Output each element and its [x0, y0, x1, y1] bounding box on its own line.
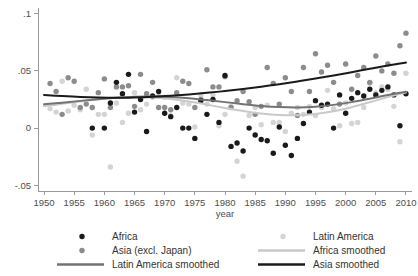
- data-point-asia: [120, 84, 125, 89]
- data-point-africa: [144, 129, 149, 134]
- data-point-latin-america: [325, 88, 330, 93]
- data-point-latin-america: [271, 120, 276, 125]
- data-point-africa: [355, 90, 360, 95]
- data-point-asia: [319, 69, 324, 74]
- data-point-africa: [240, 148, 245, 153]
- data-point-latin-america: [192, 124, 197, 129]
- data-point-asia: [96, 90, 101, 95]
- data-point-africa: [379, 88, 384, 93]
- data-point-asia: [192, 105, 197, 110]
- x-tick-label: 1975: [184, 197, 205, 208]
- data-point-africa: [192, 136, 197, 141]
- data-point-africa: [246, 125, 251, 130]
- data-point-asia: [349, 87, 354, 92]
- data-point-africa: [367, 87, 372, 92]
- data-point-latin-america: [349, 121, 354, 126]
- data-point-africa: [295, 136, 300, 141]
- legend-label: Africa smoothed: [313, 245, 385, 256]
- data-point-asia: [367, 80, 372, 85]
- data-point-africa: [265, 138, 270, 143]
- data-point-africa: [168, 114, 173, 119]
- data-point-latin-america: [114, 100, 119, 105]
- data-point-asia: [180, 79, 185, 84]
- data-point-asia: [150, 80, 155, 85]
- data-point-asia: [204, 67, 209, 72]
- data-point-latin-america: [222, 112, 227, 117]
- data-point-africa: [120, 91, 125, 96]
- data-point-latin-america: [126, 111, 131, 116]
- data-point-latin-america: [234, 159, 239, 164]
- data-point-latin-america: [240, 173, 245, 178]
- data-point-asia: [90, 105, 95, 110]
- data-point-asia: [403, 30, 408, 35]
- legend-marker-icon: [79, 234, 84, 239]
- legend-label: Latin America smoothed: [112, 259, 219, 270]
- legend-label: Asia smoothed: [313, 259, 379, 270]
- legend-label: Latin America: [313, 231, 374, 242]
- x-tick-label: 1985: [245, 197, 266, 208]
- data-point-latin-america: [53, 109, 58, 114]
- data-point-latin-america: [361, 105, 366, 110]
- data-point-asia: [132, 104, 137, 109]
- data-point-africa: [252, 132, 257, 137]
- data-point-africa: [337, 92, 342, 97]
- data-point-africa: [397, 123, 402, 128]
- x-tick-label: 1995: [305, 197, 326, 208]
- x-tick-label: 1950: [33, 197, 54, 208]
- x-tick-label: 2005: [365, 197, 386, 208]
- data-point-africa: [349, 96, 354, 101]
- data-point-asia: [301, 65, 306, 70]
- data-point-asia: [59, 112, 64, 117]
- data-point-africa: [126, 72, 131, 77]
- data-point-africa: [228, 144, 233, 149]
- data-point-africa: [162, 111, 167, 116]
- x-axis-title: year: [216, 208, 234, 219]
- data-point-asia: [156, 105, 161, 110]
- data-point-latin-america: [391, 104, 396, 109]
- data-point-asia: [65, 75, 70, 80]
- data-point-asia: [373, 53, 378, 58]
- data-point-africa: [108, 100, 113, 105]
- data-point-asia: [53, 89, 58, 94]
- legend-label: Africa: [112, 231, 138, 242]
- data-point-latin-america: [84, 87, 89, 92]
- data-point-latin-america: [47, 106, 52, 111]
- y-tick-label: 0: [26, 122, 31, 133]
- data-point-africa: [102, 125, 107, 130]
- data-point-africa: [186, 125, 191, 130]
- data-point-africa: [222, 73, 227, 78]
- data-point-asia: [331, 80, 336, 85]
- data-point-asia: [313, 51, 318, 56]
- data-point-africa: [301, 121, 306, 126]
- data-point-latin-america: [337, 123, 342, 128]
- data-point-latin-america: [96, 112, 101, 117]
- data-point-asia: [289, 89, 294, 94]
- data-point-africa: [277, 124, 282, 129]
- data-point-africa: [234, 140, 239, 145]
- chart-canvas: -.050.05.1195019551960196519701975198019…: [0, 0, 418, 276]
- data-point-latin-america: [397, 139, 402, 144]
- data-point-latin-america: [102, 112, 107, 117]
- data-point-asia: [47, 81, 52, 86]
- x-tick-label: 1970: [154, 197, 175, 208]
- x-tick-label: 1980: [214, 197, 235, 208]
- data-point-latin-america: [258, 122, 263, 127]
- x-tick-label: 1990: [275, 197, 296, 208]
- x-tick-label: 1960: [94, 197, 115, 208]
- data-point-africa: [331, 125, 336, 130]
- data-point-latin-america: [90, 132, 95, 137]
- data-point-latin-america: [108, 164, 113, 169]
- data-point-africa: [258, 137, 263, 142]
- data-point-africa: [90, 125, 95, 130]
- y-tick-label: -.05: [15, 180, 31, 191]
- data-point-africa: [174, 105, 179, 110]
- data-point-latin-america: [283, 129, 288, 134]
- data-point-africa: [216, 120, 221, 125]
- data-point-latin-america: [132, 90, 137, 95]
- data-point-asia: [216, 84, 221, 89]
- data-point-asia: [379, 68, 384, 73]
- data-point-africa: [204, 112, 209, 117]
- data-point-asia: [126, 83, 131, 88]
- data-point-asia: [283, 75, 288, 80]
- data-point-asia: [84, 101, 89, 106]
